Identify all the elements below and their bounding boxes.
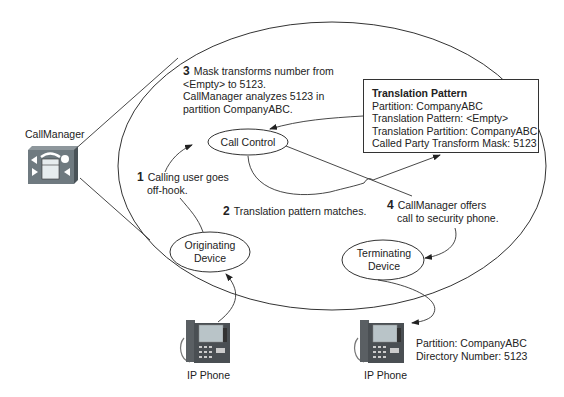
callmanager-server-icon [28, 146, 78, 184]
line-step4 [286, 146, 412, 196]
step-1-line: Calling user goes [148, 171, 229, 183]
arrow-step1-tail [180, 198, 203, 232]
step-2-annotation: 2Translation pattern matches. [223, 205, 366, 218]
ip-phone-2-label: IP Phone [364, 369, 407, 382]
translation-pattern-translation-partition: Translation Partition: CompanyABC [372, 125, 538, 138]
arrow-step4 [425, 228, 456, 258]
translation-pattern-partition: Partition: CompanyABC [372, 100, 538, 113]
callmanager-connector-top [72, 58, 178, 152]
callmanager-label: CallManager [25, 128, 85, 141]
translation-pattern-pattern: Translation Pattern: <Empty> [372, 112, 538, 125]
step-1-line: off-hook. [137, 184, 229, 197]
translation-pattern-box: Translation Pattern Partition: CompanyAB… [363, 79, 539, 153]
ip-phone-icon [181, 320, 230, 363]
arrow-step1 [165, 145, 192, 172]
ip-phone-2-partition: Partition: CompanyABC [416, 337, 527, 350]
step-3-annotation: 3Mask transforms number from <Empty> to … [183, 65, 334, 115]
step-3-line: <Empty> to 5123. [183, 78, 334, 91]
step-3-number: 3 [183, 64, 190, 78]
terminating-device-label: Terminating Device [343, 247, 425, 272]
originating-device-line: Device [170, 252, 250, 265]
originating-device-line: Originating [170, 239, 250, 252]
step-2-number: 2 [223, 204, 230, 218]
terminating-device-line: Device [343, 260, 425, 273]
step-3-line: Mask transforms number from [194, 65, 334, 77]
ip-phone-icon [355, 320, 404, 363]
arrow-step2 [248, 156, 364, 195]
arrow-phone-to-originating [218, 274, 236, 322]
translation-pattern-mask: Called Party Transform Mask: 5123 [372, 137, 538, 150]
arrow-step2-head [373, 155, 440, 180]
step-4-line: call to security phone. [387, 212, 499, 225]
terminating-device-line: Terminating [343, 247, 425, 260]
step-4-line: CallManager offers [398, 199, 487, 211]
arrow-step3 [270, 116, 363, 129]
step-3-line: partition CompanyABC. [183, 103, 334, 116]
ip-phone-2-details: Partition: CompanyABC Directory Number: … [416, 337, 527, 362]
step-3-line: CallManager analyzes 5123 in [183, 90, 334, 103]
ip-phone-2-directory-number: Directory Number: 5123 [416, 350, 527, 363]
step-1-number: 1 [137, 170, 144, 184]
originating-device-label: Originating Device [170, 239, 250, 264]
translation-pattern-title: Translation Pattern [372, 87, 538, 100]
step-4-annotation: 4CallManager offers call to security pho… [387, 199, 499, 224]
ip-phone-1-label: IP Phone [187, 369, 230, 382]
step-1-annotation: 1Calling user goes off-hook. [137, 171, 229, 196]
call-control-label: Call Control [208, 136, 288, 149]
step-2-line: Translation pattern matches. [234, 205, 367, 217]
step-4-number: 4 [387, 198, 394, 212]
